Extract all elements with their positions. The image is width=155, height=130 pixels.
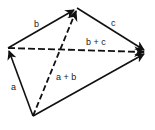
label-b-plus-c: b + c (86, 37, 106, 47)
label-a-plus-b: a + b (56, 72, 76, 82)
resultant-vector-arrow (33, 54, 144, 116)
vector-b-arrow (8, 10, 74, 48)
label-a: a (11, 82, 16, 92)
vector-diagram: a b c b + c a + b (0, 0, 155, 130)
label-b: b (34, 19, 39, 29)
label-c: c (111, 18, 116, 28)
vector-a-plus-b-arrow (33, 11, 76, 116)
vector-b-plus-c-arrow (8, 48, 144, 52)
